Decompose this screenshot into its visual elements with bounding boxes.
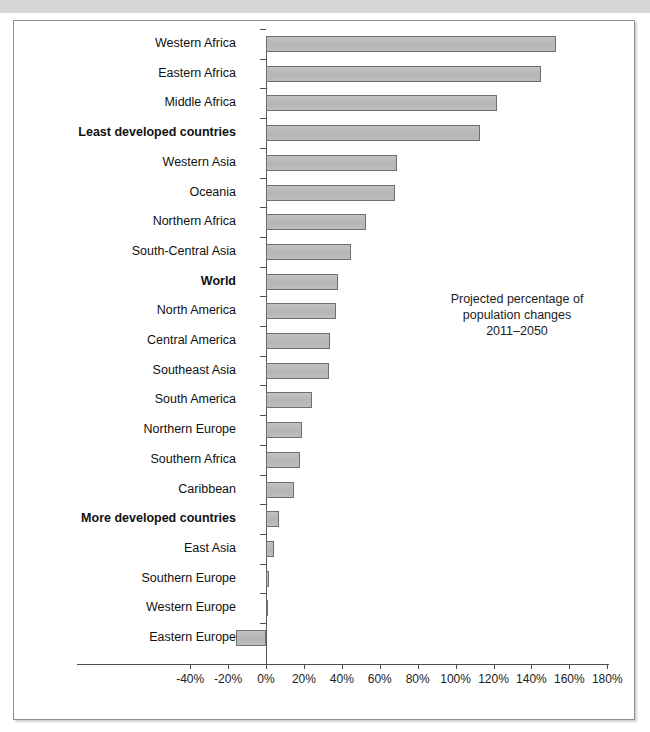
category-label: Northern Europe (0, 422, 236, 436)
category-label: Least developed countries (0, 125, 236, 139)
bar (266, 274, 338, 290)
category-label: South-Central Asia (0, 244, 236, 258)
category-label: Northern Africa (0, 214, 236, 228)
category-label: Eastern Africa (0, 66, 236, 80)
category-label: East Asia (0, 541, 236, 555)
annotation-line-1: Projected percentage of (422, 291, 612, 307)
category-label: Caribbean (0, 482, 236, 496)
x-axis-tick (494, 664, 495, 669)
y-axis-tick (260, 296, 266, 297)
category-label: South America (0, 392, 236, 406)
y-axis-tick (260, 564, 266, 565)
annotation-line-2: population changes (422, 307, 612, 323)
y-axis-tick (260, 356, 266, 357)
chart-annotation: Projected percentage of population chang… (422, 291, 612, 339)
bar (266, 95, 497, 111)
category-label: Western Africa (0, 36, 236, 50)
y-axis-tick (260, 326, 266, 327)
bar (266, 333, 330, 349)
y-axis-tick (260, 237, 266, 238)
bar (266, 303, 336, 319)
y-axis-tick (260, 623, 266, 624)
bar (266, 452, 300, 468)
x-axis-tick (569, 664, 570, 669)
x-axis-line (77, 664, 609, 665)
bar (266, 36, 556, 52)
bar (266, 600, 268, 616)
category-label: Oceania (0, 185, 236, 199)
bar (266, 392, 312, 408)
category-label: Central America (0, 333, 236, 347)
x-axis-tick (304, 664, 305, 669)
x-axis-tick (342, 664, 343, 669)
y-axis-tick (260, 415, 266, 416)
y-axis-tick (260, 475, 266, 476)
category-label: North America (0, 303, 236, 317)
bar (266, 363, 329, 379)
bar (266, 422, 302, 438)
x-axis-tick-label: 180% (577, 672, 637, 686)
bar (236, 630, 266, 646)
x-axis-tick (418, 664, 419, 669)
bar (266, 66, 541, 82)
x-axis-tick (190, 664, 191, 669)
category-label: Southern Africa (0, 452, 236, 466)
y-axis-tick (260, 148, 266, 149)
bar (266, 482, 294, 498)
bar (266, 185, 395, 201)
y-axis-tick (260, 29, 266, 30)
y-axis-tick (260, 593, 266, 594)
category-label: Western Asia (0, 155, 236, 169)
x-axis-tick (380, 664, 381, 669)
category-label: Eastern Europe (0, 630, 236, 644)
bar (266, 244, 351, 260)
x-axis-tick (228, 664, 229, 669)
y-axis-tick (260, 59, 266, 60)
bar (266, 125, 480, 141)
annotation-line-3: 2011–2050 (422, 323, 612, 339)
y-axis-tick (260, 207, 266, 208)
x-axis-tick (531, 664, 532, 669)
y-axis-tick (260, 267, 266, 268)
bar (266, 155, 397, 171)
category-label: Western Europe (0, 600, 236, 614)
y-axis-tick (260, 504, 266, 505)
category-label: Middle Africa (0, 95, 236, 109)
bar (266, 541, 274, 557)
x-axis-tick (456, 664, 457, 669)
y-axis-tick (260, 445, 266, 446)
y-axis-tick (260, 178, 266, 179)
y-axis-tick (260, 118, 266, 119)
scan-top-band (0, 0, 650, 13)
y-axis-tick (260, 88, 266, 89)
category-label: Southeast Asia (0, 363, 236, 377)
bar (266, 511, 279, 527)
bar (266, 214, 366, 230)
x-axis-tick (266, 664, 267, 669)
bar (266, 571, 269, 587)
bar-chart: Projected percentage of population chang… (14, 21, 636, 721)
category-label: World (0, 274, 236, 288)
y-axis-tick (260, 534, 266, 535)
category-label: More developed countries (0, 511, 236, 525)
y-axis-tick (260, 385, 266, 386)
category-label: Southern Europe (0, 571, 236, 585)
figure-frame: Projected percentage of population chang… (13, 20, 635, 720)
x-axis-tick (607, 664, 608, 669)
